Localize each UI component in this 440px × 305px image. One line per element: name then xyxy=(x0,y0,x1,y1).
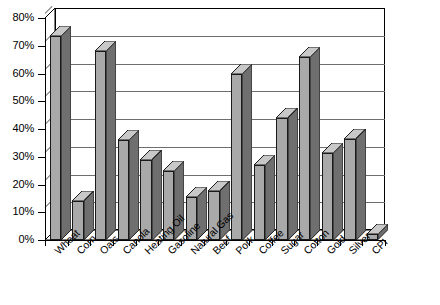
y-tick-mark xyxy=(38,101,45,102)
y-tick-label: 30% xyxy=(0,150,34,162)
y-axis-line xyxy=(45,18,46,240)
y-tick-mark xyxy=(38,46,45,47)
y-tick-mark xyxy=(38,157,45,158)
bar-chart: 0%10%20%30%40%50%60%70%80% WheatCornOats… xyxy=(0,0,440,305)
y-tick-label: 80% xyxy=(0,11,34,23)
gridline-20% xyxy=(55,175,385,176)
y-tick-label: 10% xyxy=(0,205,34,217)
y-tick-mark xyxy=(38,185,45,186)
y-tick-mark xyxy=(38,18,45,19)
y-tick-label: 50% xyxy=(0,94,34,106)
y-tick-mark xyxy=(38,129,45,130)
y-tick-label: 20% xyxy=(0,178,34,190)
gridline-10% xyxy=(55,202,385,203)
y-tick-label: 60% xyxy=(0,67,34,79)
y-tick-mark xyxy=(38,74,45,75)
gridline-30% xyxy=(55,147,385,148)
x-tick-mark xyxy=(45,240,46,246)
gridline-70% xyxy=(55,36,385,37)
gridline-50% xyxy=(55,91,385,92)
gridline-60% xyxy=(55,64,385,65)
y-tick-mark xyxy=(38,240,45,241)
y-tick-mark xyxy=(38,212,45,213)
y-tick-label: 70% xyxy=(0,39,34,51)
gridline-40% xyxy=(55,119,385,120)
y-tick-label: 40% xyxy=(0,122,34,134)
y-tick-label: 0% xyxy=(0,233,34,245)
